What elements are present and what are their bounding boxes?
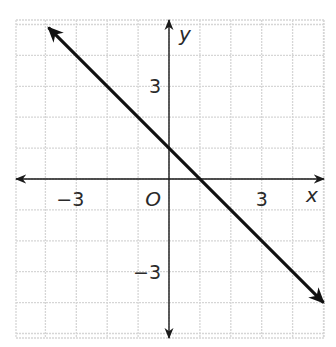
line-y-equals-negative-x-plus-1	[48, 28, 323, 303]
x-tick-label: 3	[256, 188, 268, 210]
y-tick-label: −3	[133, 261, 161, 283]
origin-label: O	[145, 187, 161, 211]
x-tick-label: −3	[56, 188, 84, 210]
y-axis-label: y	[178, 22, 192, 46]
x-axis-label: x	[305, 183, 318, 207]
labels: −333−3Oxy	[56, 22, 318, 283]
data-series	[48, 28, 323, 303]
axes	[16, 20, 324, 338]
coordinate-plane: −333−3Oxy	[0, 0, 336, 347]
y-tick-label: 3	[149, 75, 161, 97]
